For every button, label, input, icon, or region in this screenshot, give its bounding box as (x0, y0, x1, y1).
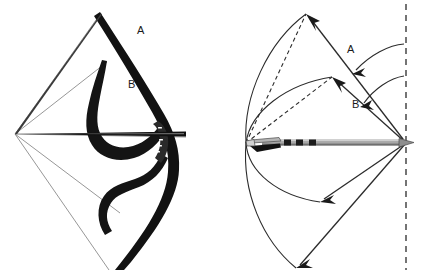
arrow-crest-bands (284, 140, 316, 146)
arrow-nock (246, 140, 255, 147)
figure-background (0, 0, 422, 274)
right-label-a: A (347, 43, 355, 55)
left-label-a: A (137, 24, 145, 36)
right-label-b: B (352, 98, 359, 110)
arrow-shaft-shade-top (262, 140, 404, 142)
figure-root: A B (0, 0, 422, 274)
arrow-shaft-shade-bottom (262, 144, 404, 146)
left-label-b: B (128, 78, 135, 90)
bow-comparison-figure: A B (0, 0, 422, 274)
